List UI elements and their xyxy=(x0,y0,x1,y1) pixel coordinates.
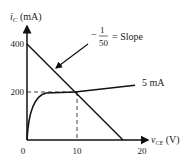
y-tick-label: 400 xyxy=(11,39,25,49)
annotation-arrow xyxy=(56,44,88,68)
svg-text:−: − xyxy=(91,29,97,40)
curve-label: 5 mA xyxy=(142,77,165,88)
svg-text:= Slope: = Slope xyxy=(112,31,143,42)
y-axis-label: iC (mA) xyxy=(10,11,42,24)
chart: iC (mA) vCE (V) 01020400200 − 1 50 = Slo… xyxy=(0,0,188,160)
svg-text:50: 50 xyxy=(99,38,109,48)
x-tick-label: 20 xyxy=(138,146,148,156)
x-axis-label: vCE (V) xyxy=(151,134,180,146)
svg-text:1: 1 xyxy=(100,25,105,35)
x-tick-label: 10 xyxy=(73,146,83,156)
curve-5mA xyxy=(27,85,135,140)
slope-annotation: − 1 50 = Slope xyxy=(91,25,143,48)
x-tick-label: 0 xyxy=(21,146,26,156)
y-tick-label: 200 xyxy=(11,87,25,97)
